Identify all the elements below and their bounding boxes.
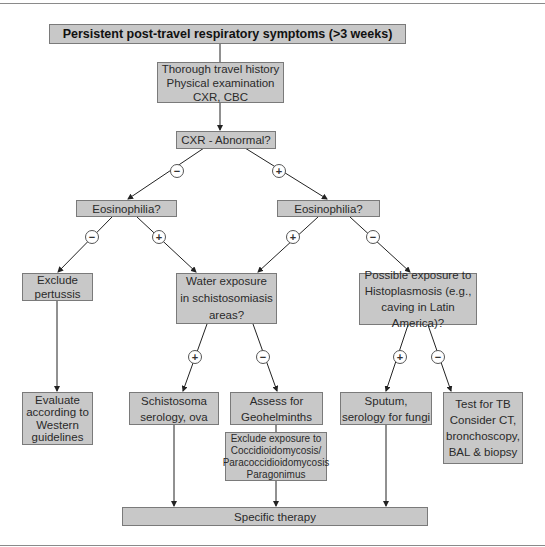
- node-histoplasmosis: Possible exposure to Histoplasmosis (e.g…: [359, 273, 477, 325]
- node-geohelminths: Assess for Geohelminths: [230, 392, 323, 425]
- minus-sign-icon: −: [85, 230, 99, 244]
- plus-sign-icon: +: [286, 230, 300, 244]
- plus-sign-icon: +: [188, 350, 202, 364]
- node-eosinophilia-left: Eosinophilia?: [76, 200, 177, 217]
- plus-sign-icon: +: [152, 230, 166, 244]
- node-specific-therapy: Specific therapy: [122, 507, 428, 526]
- node-evaluate-western: Evaluate according to Western guidelines: [22, 392, 93, 445]
- minus-sign-icon: −: [170, 164, 184, 178]
- node-water-exposure: Water exposure in schistosomiasis areas?: [176, 273, 277, 324]
- minus-sign-icon: −: [256, 350, 270, 364]
- node-start: Persistent post-travel respiratory sympt…: [49, 24, 406, 44]
- node-cxr-abnormal: CXR - Abnormal?: [176, 131, 276, 149]
- plus-sign-icon: +: [393, 350, 407, 364]
- minus-sign-icon: −: [366, 230, 380, 244]
- node-exclude-pertussis: Exclude pertussis: [22, 273, 93, 301]
- minus-sign-icon: −: [431, 350, 445, 364]
- node-sputum-serology: Sputum, serology for fungi: [340, 392, 432, 425]
- node-schistosoma-serology: Schistosoma serology, ova: [129, 392, 219, 425]
- node-test-tb: Test for TB Consider CT, bronchoscopy, B…: [443, 392, 523, 464]
- plus-sign-icon: +: [272, 164, 286, 178]
- node-exclude-fungal: Exclude exposure to Coccidioidomycosis/ …: [225, 432, 327, 481]
- node-workup: Thorough travel history Physical examina…: [157, 62, 284, 103]
- node-eosinophilia-right: Eosinophilia?: [277, 200, 380, 217]
